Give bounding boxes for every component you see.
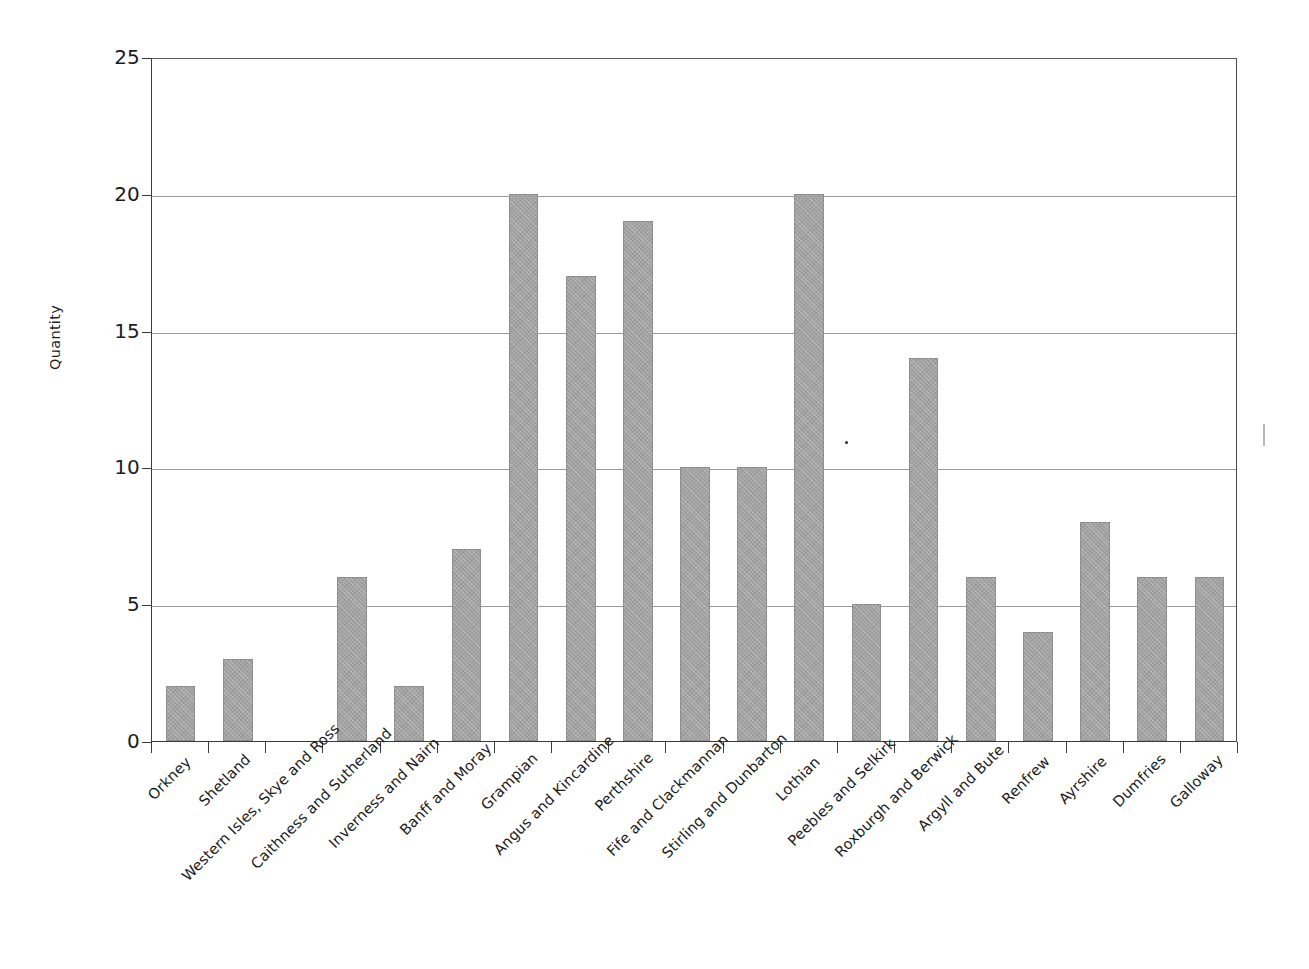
bar — [1137, 577, 1167, 741]
bar — [1023, 632, 1053, 741]
x-tick-mark — [1123, 742, 1124, 753]
bar — [394, 686, 424, 741]
scan-edge-artifact — [1263, 424, 1265, 446]
bar — [166, 686, 196, 741]
bar-chart-figure: Quantity 0510152025 OrkneyShetlandWester… — [0, 0, 1309, 969]
y-tick-mark-25 — [142, 58, 151, 59]
y-tick-mark-15 — [142, 332, 151, 333]
y-tick-mark-10 — [142, 468, 151, 469]
bar — [852, 604, 882, 741]
x-tick-mark — [265, 742, 266, 753]
x-tick-label: Galloway — [1166, 750, 1226, 810]
gridline-15 — [152, 333, 1236, 334]
x-tick-mark — [1066, 742, 1067, 753]
x-tick-mark — [837, 742, 838, 753]
bar — [966, 577, 996, 741]
bar — [737, 467, 767, 741]
x-tick-label: Dumfries — [1109, 750, 1169, 810]
scan-speck-artifact — [845, 441, 848, 444]
x-tick-mark — [1008, 742, 1009, 753]
bar — [680, 467, 710, 741]
bar — [509, 194, 539, 741]
x-tick-mark — [1180, 742, 1181, 753]
x-tick-mark — [208, 742, 209, 753]
y-tick-mark-20 — [142, 195, 151, 196]
y-tick-label-20: 20 — [96, 182, 140, 206]
x-tick-mark — [665, 742, 666, 753]
y-tick-label-15: 15 — [96, 319, 140, 343]
y-tick-label-10: 10 — [96, 455, 140, 479]
y-tick-label-25: 25 — [96, 45, 140, 69]
bar — [1080, 522, 1110, 741]
bar — [909, 358, 939, 741]
bar — [452, 549, 482, 741]
bar — [337, 577, 367, 741]
x-tick-label: Shetland — [195, 751, 254, 810]
x-tick-mark — [1237, 742, 1238, 753]
gridline-20 — [152, 196, 1236, 197]
x-tick-label: Lothian — [772, 753, 823, 804]
y-axis-title: Quantity — [47, 230, 63, 370]
bar — [794, 194, 824, 741]
bar — [566, 276, 596, 741]
x-tick-label: Renfrew — [998, 752, 1053, 807]
y-tick-mark-0 — [142, 742, 151, 743]
y-tick-mark-5 — [142, 605, 151, 606]
bar — [223, 659, 253, 741]
bar — [623, 221, 653, 741]
y-tick-label-5: 5 — [96, 592, 140, 616]
x-tick-mark — [551, 742, 552, 753]
x-tick-label: Inverness and Nairn — [325, 734, 442, 851]
bar — [1195, 577, 1225, 741]
y-tick-label-0: 0 — [96, 729, 140, 753]
x-tick-label: Orkney — [144, 753, 194, 803]
x-tick-label: Ayrshire — [1055, 752, 1110, 807]
x-tick-mark — [151, 742, 152, 753]
plot-area — [151, 58, 1237, 742]
x-tick-label: Peebles and Selkirk — [784, 734, 899, 849]
